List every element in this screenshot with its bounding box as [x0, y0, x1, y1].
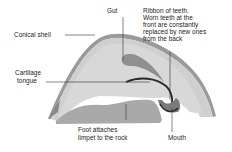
label-cartilage-line2: tongue — [17, 77, 37, 84]
label-gut: Gut — [107, 7, 117, 14]
label-foot-line2: limpet to the rock — [78, 134, 128, 141]
label-ribbon-line2: Worn teeth at the — [143, 14, 193, 21]
label-foot-line1: Foot attaches — [78, 126, 117, 133]
label-cartilage-line1: Cartilage — [15, 69, 41, 76]
label-ribbon-line1: Ribbon of teeth. — [143, 7, 189, 14]
label-ribbon-line4: replaced by new ones — [143, 28, 206, 35]
label-ribbon-line3: front are constantly — [143, 21, 198, 28]
label-conical-shell: Conical shell — [14, 31, 51, 38]
label-mouth: Mouth — [168, 134, 186, 141]
label-ribbon-line5: from the back — [143, 35, 182, 42]
